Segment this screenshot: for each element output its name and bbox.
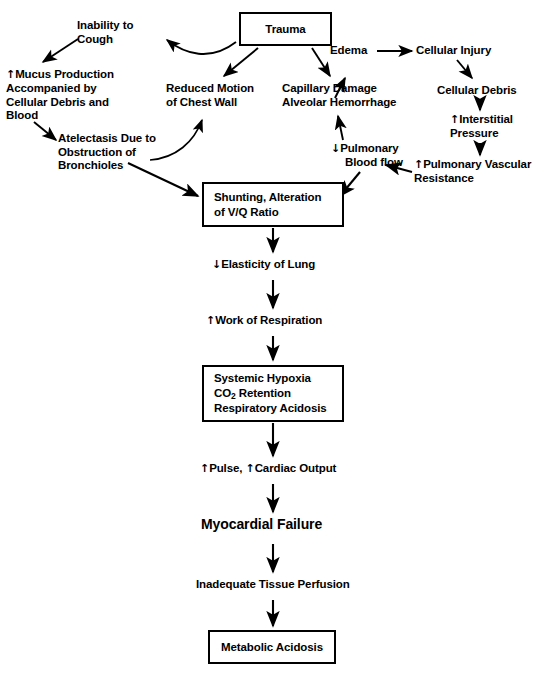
node-cellular-debris-label: Cellular Debris (437, 84, 529, 98)
edge-inability-to-mucus (43, 39, 78, 62)
node-hypoxia-subscript: 2 (231, 391, 236, 401)
node-inadequate-tissue-perfusion[interactable]: Inadequate Tissue Perfusion (196, 578, 356, 592)
node-mucus-line4: Blood (6, 109, 148, 123)
node-capillary-line2: Alveolar Hemorrhage (282, 96, 416, 110)
node-atelectasis[interactable]: Atelectasis Due to Obstruction of Bronch… (58, 132, 184, 173)
increase-arrow-icon: ↑ (200, 462, 209, 475)
node-pulmblood-text1: Pulmonary (340, 142, 399, 154)
node-pulmblood-line2: Blood flow (331, 156, 417, 170)
node-myocardial-failure[interactable]: Myocardial Failure (201, 516, 346, 533)
diagram-canvas: Trauma Inability to Cough ↑Mucus Product… (0, 0, 540, 680)
node-myocardial-label: Myocardial Failure (201, 516, 346, 533)
node-edema-label: Edema (330, 44, 378, 58)
node-work-of-respiration[interactable]: ↑Work of Respiration (206, 314, 348, 328)
increase-arrow-icon: ↑ (450, 113, 459, 126)
node-cardiac-output-label: Cardiac Output (255, 462, 337, 474)
node-reduced-line2: of Chest Wall (166, 96, 282, 110)
increase-arrow-icon: ↑ (6, 68, 15, 81)
node-capillary-line1: Capillary Damage (282, 82, 416, 96)
node-inability-line1: Inability to (77, 19, 181, 33)
decrease-arrow-icon: ↓ (212, 258, 221, 271)
node-reduced-line1: Reduced Motion (166, 82, 282, 96)
node-mucus-line2: Accompanied by (6, 82, 148, 96)
node-shunting-line1: Shunting, Alteration (214, 190, 332, 205)
node-pulse-cardiac-output[interactable]: ↑Pulse, ↑Cardiac Output (200, 462, 352, 476)
node-reduced-motion[interactable]: Reduced Motion of Chest Wall (166, 82, 282, 109)
node-mucus-text1: Mucus Production (15, 68, 114, 80)
node-shunting[interactable]: Shunting, Alteration of V/Q Ratio (202, 182, 344, 227)
node-pvr-line1: ↑Pulmonary Vascular (414, 158, 540, 172)
node-cellular-injury[interactable]: Cellular Injury (416, 44, 506, 58)
edge-trauma-to-reduced (224, 48, 258, 76)
node-mucus-line3: Cellular Debris and (6, 96, 148, 110)
node-hypoxia-line3: Respiratory Acidosis (214, 401, 332, 416)
node-perfusion-label: Inadequate Tissue Perfusion (196, 578, 356, 592)
node-pvr-text1: Pulmonary Vascular (423, 158, 531, 170)
node-pulmonary-blood-flow[interactable]: ↓Pulmonary Blood flow (331, 142, 417, 170)
edge-mucus-to-atelectasis (34, 122, 56, 140)
node-pulse-label: Pulse, (209, 462, 242, 474)
node-interstitial-line1: ↑Interstitial (450, 113, 536, 127)
node-trauma-label: Trauma (241, 22, 330, 37)
node-metabolic-acidosis[interactable]: Metabolic Acidosis (208, 630, 336, 664)
node-hypoxia-co: CO (214, 387, 231, 399)
node-metabolic-label: Metabolic Acidosis (210, 640, 334, 655)
node-interstitial-text1: Interstitial (459, 113, 513, 125)
node-atelectasis-line2: Obstruction of (58, 146, 184, 160)
edge-trauma-to-capillary (312, 48, 330, 76)
node-pulmonary-vascular-resistance[interactable]: ↑Pulmonary Vascular Resistance (414, 158, 540, 186)
node-cellular-injury-label: Cellular Injury (416, 44, 506, 58)
node-systemic-hypoxia[interactable]: Systemic Hypoxia CO2 Retention Respirato… (202, 365, 344, 422)
node-capillary-damage[interactable]: Capillary Damage Alveolar Hemorrhage (282, 82, 416, 109)
node-hypoxia-retention: Retention (236, 387, 291, 399)
node-atelectasis-line1: Atelectasis Due to (58, 132, 184, 146)
node-interstitial-line2: Pressure (450, 127, 536, 141)
increase-arrow-icon: ↑ (246, 462, 255, 475)
node-work-label: Work of Respiration (215, 314, 322, 326)
edge-cellinjury-to-celldebris (457, 60, 472, 78)
node-hypoxia-line1: Systemic Hypoxia (214, 371, 332, 386)
node-elasticity-of-lung[interactable]: ↓Elasticity of Lung (212, 258, 342, 272)
node-cellular-debris[interactable]: Cellular Debris (437, 84, 529, 98)
node-mucus-line1: ↑Mucus Production (6, 68, 148, 82)
increase-arrow-icon: ↑ (206, 314, 215, 327)
node-pvr-line2: Resistance (414, 172, 540, 186)
node-atelectasis-line3: Bronchioles (58, 159, 184, 173)
node-interstitial-pressure[interactable]: ↑Interstitial Pressure (450, 113, 536, 141)
node-elasticity-label: Elasticity of Lung (221, 258, 315, 270)
node-shunting-line2: of V/Q Ratio (214, 205, 332, 220)
node-hypoxia-line2: CO2 Retention (214, 386, 332, 401)
node-inability-to-cough[interactable]: Inability to Cough (77, 19, 181, 46)
decrease-arrow-icon: ↓ (331, 142, 340, 155)
node-mucus-production[interactable]: ↑Mucus Production Accompanied by Cellula… (6, 68, 148, 123)
node-pulmblood-line1: ↓Pulmonary (331, 142, 417, 156)
edge-pulmblood-to-capillary (338, 116, 343, 140)
node-edema[interactable]: Edema (330, 44, 378, 58)
node-inability-line2: Cough (77, 33, 181, 47)
node-trauma[interactable]: Trauma (239, 12, 332, 46)
